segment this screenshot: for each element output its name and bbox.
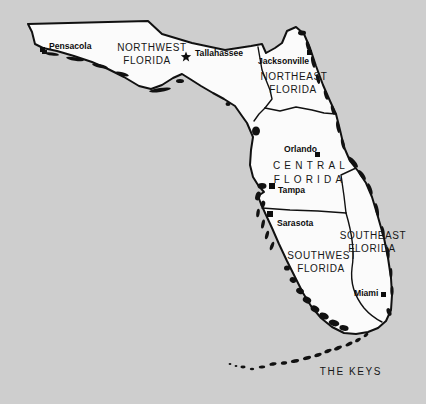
florida-regions-map: Pensacola Tallahassee Jacksonville Orlan…	[0, 0, 426, 404]
city-label-pensacola: Pensacola	[49, 41, 92, 51]
city-label-miami: Miami	[354, 288, 378, 298]
pensacola-marker-icon	[40, 47, 45, 52]
region-label-southeast-line1: SOUTHEAST	[340, 230, 407, 241]
region-label-southwest-line1: SOUTHWEST	[287, 250, 356, 261]
region-label-central-line2: FLORIDA	[274, 174, 347, 185]
region-label-southeast-line2: FLORIDA	[348, 243, 396, 254]
city-label-tallahassee: Tallahassee	[195, 48, 243, 58]
region-label-central-line1: CENTRAL	[273, 160, 349, 171]
jacksonville-marker-icon	[307, 50, 312, 55]
miami-marker-icon	[381, 292, 386, 297]
city-label-tampa: Tampa	[278, 185, 305, 195]
city-label-jacksonville: Jacksonville	[258, 56, 309, 66]
region-label-the-keys: THE KEYS	[320, 366, 382, 377]
region-label-southwest-line2: FLORIDA	[297, 263, 345, 274]
city-label-sarasota: Sarasota	[277, 218, 314, 228]
region-label-northwest-line1: NORTHWEST	[117, 42, 187, 53]
region-label-northeast-line1: NORTHEAST	[261, 71, 328, 82]
map-canvas: Pensacola Tallahassee Jacksonville Orlan…	[0, 0, 426, 404]
sarasota-marker-icon	[267, 211, 273, 217]
region-label-northwest-line2: FLORIDA	[123, 55, 171, 66]
region-label-northeast-line2: FLORIDA	[269, 84, 317, 95]
city-label-orlando: Orlando	[284, 144, 317, 154]
